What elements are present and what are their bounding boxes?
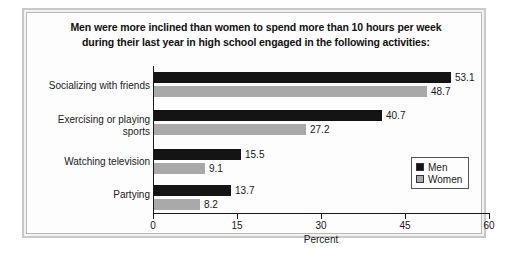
bar-women-exercising <box>154 124 306 135</box>
bar-women-socializing <box>154 86 427 97</box>
bar-men-exercising <box>154 110 382 121</box>
value-label-men-socializing: 53.1 <box>455 72 474 83</box>
value-label-women-partying: 8.2 <box>204 199 218 210</box>
x-tick-label-45: 45 <box>390 220 420 231</box>
legend-label-men: Men <box>428 162 447 173</box>
legend-item-women: Women <box>416 173 462 185</box>
bar-men-socializing <box>154 72 451 83</box>
category-label-partying: Partying <box>32 189 150 201</box>
x-axis-label: Percent <box>153 234 489 245</box>
x-tick-label-15: 15 <box>222 220 252 231</box>
bar-men-partying <box>154 185 231 196</box>
bar-women-television <box>154 163 205 174</box>
category-label-television: Watching television <box>32 156 150 168</box>
legend-swatch-men-icon <box>416 163 424 171</box>
x-tick-label-0: 0 <box>138 220 168 231</box>
value-label-men-exercising: 40.7 <box>386 110 405 121</box>
value-label-women-socializing: 48.7 <box>431 86 450 97</box>
legend-item-men: Men <box>416 161 462 173</box>
value-label-men-television: 15.5 <box>245 149 264 160</box>
x-tick-label-60: 60 <box>474 220 504 231</box>
value-label-men-partying: 13.7 <box>235 185 254 196</box>
x-tick-0 <box>153 214 154 219</box>
x-tick-30 <box>321 214 322 219</box>
value-label-women-television: 9.1 <box>209 163 223 174</box>
category-label-exercising: Exercising or playing sports <box>32 114 150 137</box>
x-tick-45 <box>405 214 406 219</box>
bar-women-partying <box>154 199 200 210</box>
x-tick-15 <box>237 214 238 219</box>
chart-frame: Men were more inclined than women to spe… <box>22 8 486 238</box>
legend-swatch-women-icon <box>416 175 424 183</box>
legend-label-women: Women <box>428 174 462 185</box>
x-tick-60 <box>489 214 490 219</box>
plot-area: Socializing with friends Exercising or p… <box>24 10 488 240</box>
value-label-women-exercising: 27.2 <box>310 124 329 135</box>
y-axis-line <box>153 66 154 213</box>
bar-men-television <box>154 149 241 160</box>
chart-legend: Men Women <box>411 157 469 189</box>
x-tick-label-30: 30 <box>306 220 336 231</box>
category-label-socializing: Socializing with friends <box>32 80 150 92</box>
